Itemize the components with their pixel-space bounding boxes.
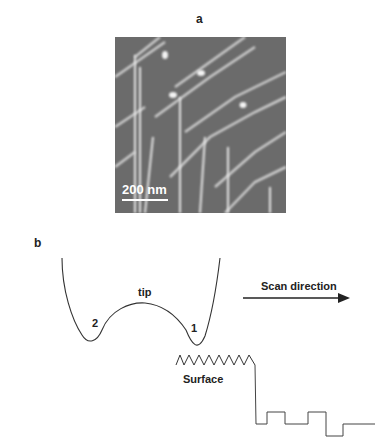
point-2-label: 2 — [92, 317, 98, 329]
arrow-head-icon — [338, 293, 350, 303]
surface-steps — [255, 365, 375, 436]
scan-direction-label: Scan direction — [261, 280, 337, 292]
surface-zigzag — [176, 355, 255, 365]
point-1-label: 1 — [191, 322, 197, 334]
tip-label: tip — [138, 286, 151, 298]
surface-label: Surface — [183, 373, 223, 385]
